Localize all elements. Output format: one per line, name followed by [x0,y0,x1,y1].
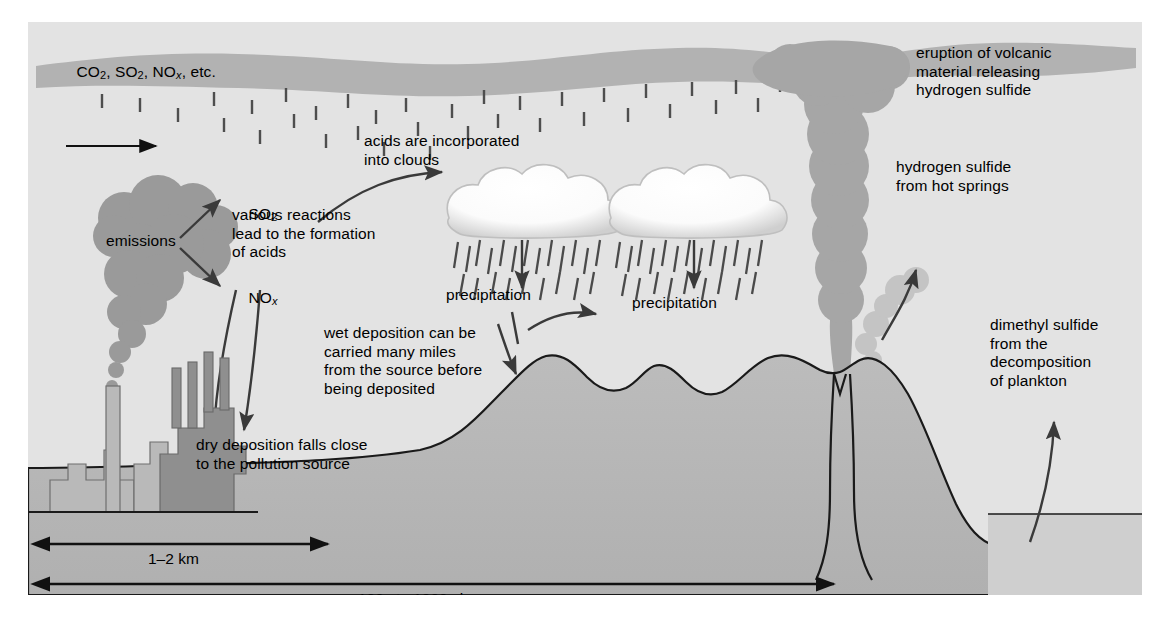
label-various-reactions: various reactions lead to the formation … [232,206,375,262]
scale-label-near: 1–2 km [148,550,199,568]
label-gases: CO2, SO2, NOx, etc. [50,44,216,103]
label-emissions: emissions [106,232,176,251]
label-nox: NOx [222,270,278,329]
label-hot-springs: hydrogen sulfide from hot springs [896,158,1011,195]
label-dry-deposition: dry deposition falls close to the pollut… [196,436,367,473]
diagram-panel: CO2, SO2, NOx, etc. emissions SO2 NOx va… [28,22,1142,595]
scale-label-far: 100s to 1000s km [358,590,480,595]
diagram-canvas [28,22,1142,595]
label-dimethyl-sulfide: dimethyl sulfide from the decomposition … [990,316,1098,390]
label-acids-into-clouds: acids are incorporated into clouds [364,132,520,169]
label-wet-deposition: wet deposition can be carried many miles… [324,324,482,398]
label-volcanic-eruption: eruption of volcanic material releasing … [916,44,1052,100]
label-precipitation-left: precipitation [446,286,531,305]
sea-surface [988,514,1142,595]
diagram-stage: CO2, SO2, NOx, etc. emissions SO2 NOx va… [0,0,1165,621]
label-precipitation-right: precipitation [632,294,717,313]
